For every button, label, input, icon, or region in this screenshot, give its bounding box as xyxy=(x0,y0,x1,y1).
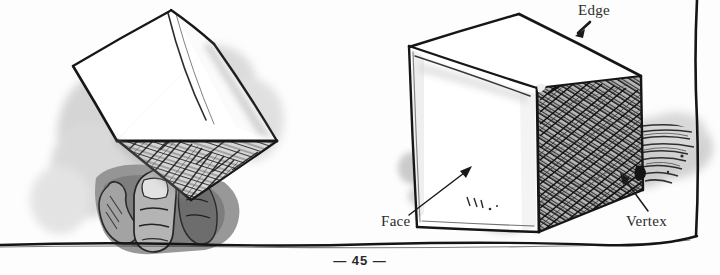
label-face: Face xyxy=(381,213,411,230)
label-edge: Edge xyxy=(578,2,610,19)
book-page: Edge Face Vertex — 45 — xyxy=(0,0,720,275)
label-vertex: Vertex xyxy=(626,213,667,230)
page-illustration xyxy=(0,0,720,275)
page-number: — 45 — xyxy=(0,253,720,268)
